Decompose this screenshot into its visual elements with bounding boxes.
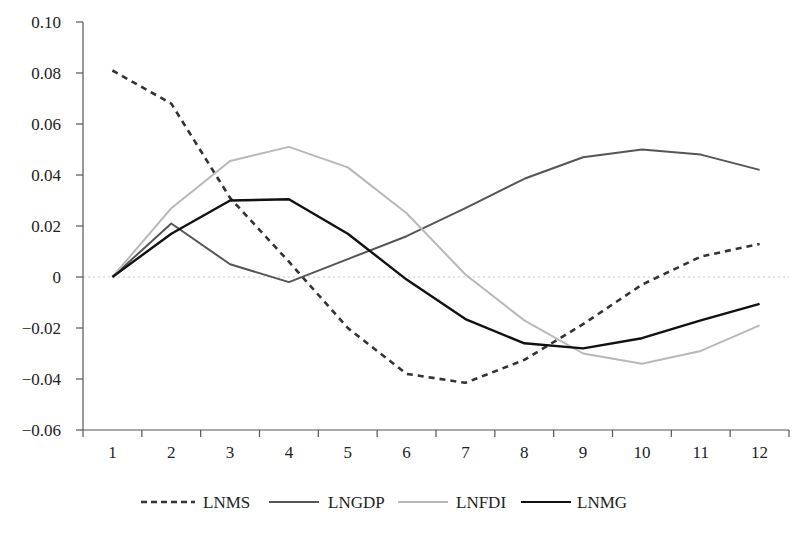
legend-item-lngdp: LNGDP <box>269 493 385 512</box>
legend-label: LNMS <box>203 493 250 512</box>
legend-item-lnfdi: LNFDI <box>398 493 506 512</box>
x-tick-label: 7 <box>461 443 470 462</box>
legend-item-lnmg: LNMG <box>521 493 627 512</box>
legend: LNMSLNGDPLNFDILNMG <box>141 493 627 512</box>
x-tick-label: 1 <box>108 443 117 462</box>
x-tick-label: 6 <box>402 443 411 462</box>
legend-label: LNMG <box>577 493 627 512</box>
y-axis: 0.100.080.060.040.020−0.02−0.04−0.06 <box>22 13 83 440</box>
plot-series <box>112 71 759 383</box>
y-tick-label: −0.02 <box>22 319 61 338</box>
x-tick-label: 3 <box>226 443 235 462</box>
y-tick-label: 0.10 <box>31 13 61 32</box>
y-tick-label: −0.04 <box>22 370 62 389</box>
y-tick-label: −0.06 <box>22 421 61 440</box>
x-tick-label: 11 <box>693 443 709 462</box>
y-tick-label: 0.08 <box>31 64 61 83</box>
series-line-lnms <box>112 71 759 383</box>
y-tick-label: 0.06 <box>31 115 61 134</box>
y-tick-label: 0.02 <box>31 217 61 236</box>
x-tick-label: 12 <box>751 443 768 462</box>
x-tick-label: 9 <box>579 443 588 462</box>
x-tick-label: 5 <box>344 443 353 462</box>
x-tick-label: 8 <box>520 443 529 462</box>
series-line-lngdp <box>112 150 759 283</box>
y-tick-label: 0 <box>53 268 62 287</box>
impulse-response-line-chart: 0.100.080.060.040.020−0.02−0.04−0.06 123… <box>0 0 802 552</box>
x-tick-label: 4 <box>285 443 294 462</box>
legend-label: LNFDI <box>456 493 506 512</box>
x-tick-label: 2 <box>167 443 176 462</box>
x-tick-label: 10 <box>633 443 650 462</box>
legend-item-lnms: LNMS <box>141 493 250 512</box>
legend-label: LNGDP <box>328 493 385 512</box>
y-tick-label: 0.04 <box>31 166 61 185</box>
x-axis: 123456789101112 <box>83 430 789 462</box>
